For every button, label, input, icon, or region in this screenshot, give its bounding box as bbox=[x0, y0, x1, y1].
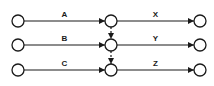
event-node bbox=[194, 64, 206, 76]
activity-label: Z bbox=[153, 59, 158, 68]
activity-label: X bbox=[153, 10, 159, 19]
activity-label: A bbox=[62, 10, 68, 19]
network-diagram: AXBYCZ bbox=[0, 0, 214, 86]
event-node bbox=[12, 15, 24, 27]
event-node bbox=[12, 39, 24, 51]
event-node bbox=[194, 15, 206, 27]
event-node bbox=[105, 64, 117, 76]
activity-label: C bbox=[62, 59, 68, 68]
event-node bbox=[105, 15, 117, 27]
event-node bbox=[12, 64, 24, 76]
activity-label: Y bbox=[153, 34, 159, 43]
activity-label: B bbox=[62, 34, 68, 43]
event-node bbox=[194, 39, 206, 51]
event-node bbox=[105, 39, 117, 51]
